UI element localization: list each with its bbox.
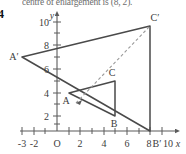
y-axis-label: y bbox=[49, 10, 55, 21]
x-label--2: -2 bbox=[30, 138, 38, 149]
x-axis-label: x bbox=[175, 138, 181, 149]
y-label-2: 2 bbox=[44, 111, 49, 122]
vertex-label-a: A bbox=[62, 95, 70, 106]
origin-label: O bbox=[53, 138, 60, 149]
x-label-10: 10 bbox=[163, 138, 173, 149]
y-tick-labels: 2 4 6 8 10 bbox=[39, 17, 49, 122]
vertex-label-c: C bbox=[109, 67, 116, 78]
vertex-label-a-prime: A′ bbox=[9, 51, 18, 62]
y-label-4: 4 bbox=[44, 88, 49, 99]
x-label--3: -3 bbox=[18, 138, 26, 149]
y-label-6: 6 bbox=[44, 64, 49, 75]
enlargement-ray-dashed bbox=[76, 26, 150, 103]
x-label-6: 6 bbox=[125, 138, 130, 149]
figure-page: centre of enlargement is (8, 2). 4 bbox=[0, 0, 186, 154]
y-label-10: 10 bbox=[39, 17, 49, 28]
triangle-a-prime-b-prime-c-prime bbox=[22, 26, 150, 131]
large-triangle bbox=[22, 26, 150, 131]
x-label-4: 4 bbox=[102, 138, 107, 149]
vertex-label-c-prime: C′ bbox=[151, 12, 160, 23]
x-label-2: 2 bbox=[78, 138, 83, 149]
y-label-8: 8 bbox=[44, 40, 49, 51]
x-label-8: 8 bbox=[147, 138, 152, 149]
x-tick-labels: -3 -2 2 4 6 8 10 bbox=[18, 138, 173, 149]
enlargement-ray-group bbox=[76, 26, 150, 105]
vertex-label-b-prime: B′ bbox=[153, 138, 162, 149]
vertex-label-b: B bbox=[111, 118, 118, 129]
coordinate-diagram: -3 -2 2 4 6 8 10 2 4 6 8 10 O x y A B C … bbox=[0, 0, 186, 154]
